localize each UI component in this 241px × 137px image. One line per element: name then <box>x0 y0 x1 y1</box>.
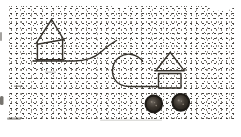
wheel-speck <box>154 102 155 103</box>
paper-notch-top-center <box>111 2 129 8</box>
wheel-speck <box>182 103 184 105</box>
house-sledge <box>33 20 117 62</box>
plate-smudges <box>0 32 162 121</box>
sledge-house-walls <box>36 40 64 60</box>
paper-notch-top-right <box>208 1 234 11</box>
wheel-speck <box>181 101 182 102</box>
engraving-panel <box>0 0 241 137</box>
cart-wheel-right <box>173 94 190 111</box>
smudge-bottom-row <box>100 120 162 122</box>
cart-draft-pole <box>112 54 158 86</box>
sledge-house-slanted-top <box>37 40 62 44</box>
smudge-bottom-left <box>7 118 21 120</box>
sledge-runner <box>33 41 117 62</box>
smudge-under-sledge <box>45 72 56 73</box>
cart-house-walls <box>159 74 182 89</box>
smudge-left-edge-upper <box>0 32 2 41</box>
cart-wheels <box>146 94 190 112</box>
wheel-speck <box>178 100 180 102</box>
cart-wheel-left <box>146 96 163 113</box>
cart-house-roof <box>156 52 184 70</box>
smudge-left-edge-lower <box>0 96 4 105</box>
engraving-drawing <box>0 0 241 137</box>
smudge-mid-left-dash <box>14 86 23 88</box>
wheel-speck <box>155 105 157 107</box>
paper-edge-notches <box>2 1 234 125</box>
wheel-speck <box>151 101 153 103</box>
house-cart <box>112 52 184 88</box>
paper-notch-bottom-left <box>2 119 16 125</box>
